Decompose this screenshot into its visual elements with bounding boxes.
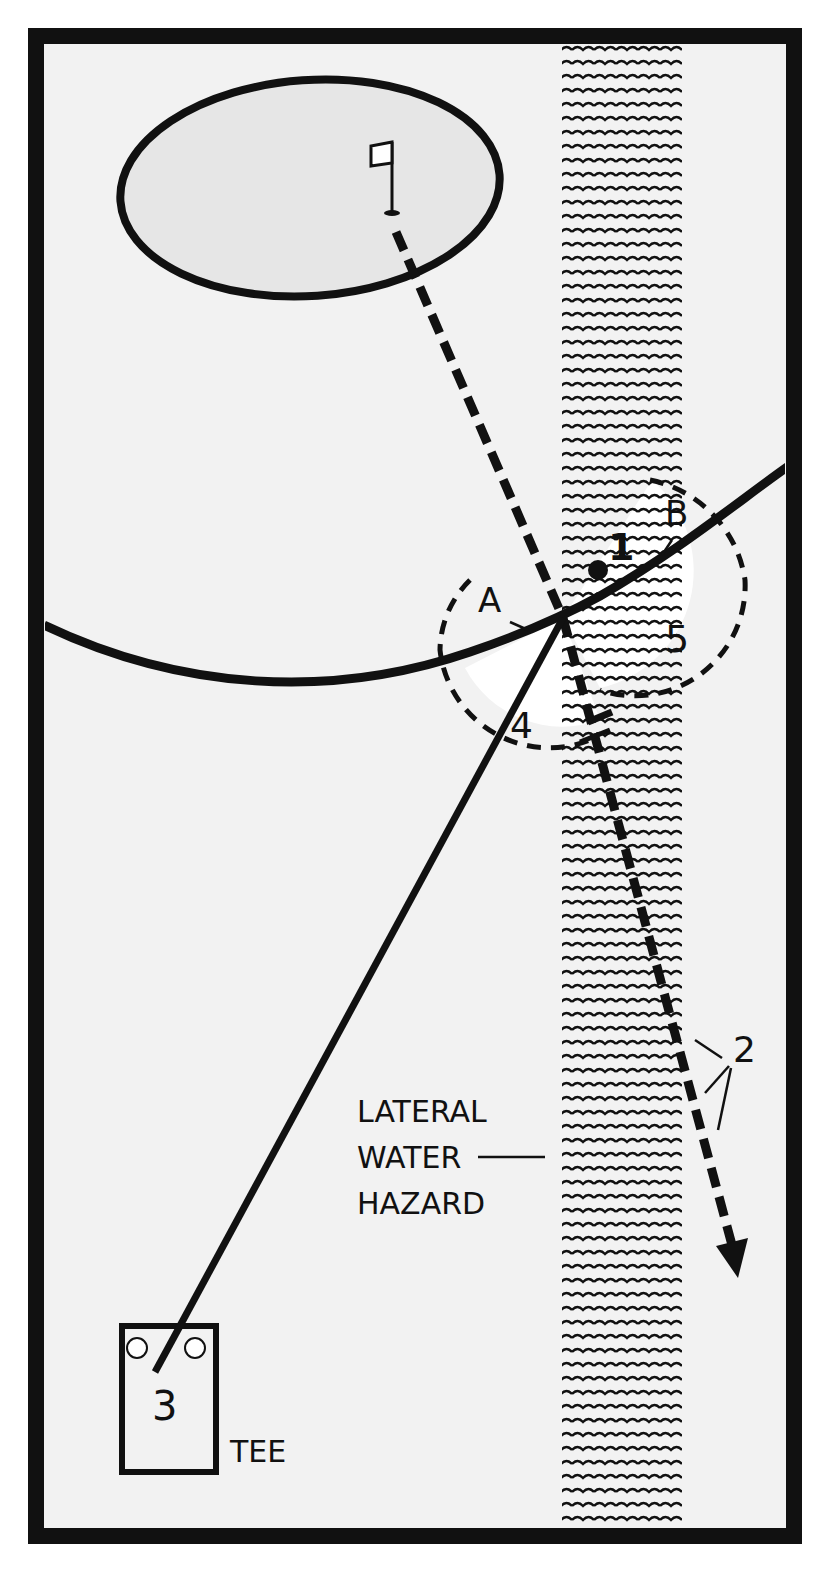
label-b: B — [665, 493, 688, 533]
tee-marker-icon — [127, 1338, 147, 1358]
lateral-water-hazard-strip — [562, 44, 682, 1529]
label-3: 3 — [152, 1383, 177, 1429]
label-hazard-line1: LATERAL — [357, 1094, 487, 1129]
label-5: 5 — [665, 617, 689, 661]
label-4: 4 — [510, 705, 533, 746]
label-a: A — [478, 580, 501, 620]
label-hazard-line2: WATER — [357, 1140, 461, 1175]
ball-icon — [588, 560, 608, 580]
label-hazard-line3: HAZARD — [357, 1186, 485, 1221]
label-1: 1 — [608, 525, 634, 569]
tee-marker-icon — [185, 1338, 205, 1358]
golf-lateral-water-hazard-diagram: A B 1 5 4 2 3 TEE LATERAL WATER HAZARD — [0, 0, 836, 1586]
label-tee: TEE — [229, 1434, 286, 1469]
label-2: 2 — [733, 1029, 756, 1070]
